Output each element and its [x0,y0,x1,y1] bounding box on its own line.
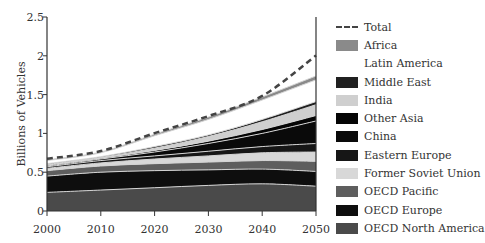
legend-label: China [364,130,397,143]
x-tick-label: 2000 [33,223,61,236]
color-swatch-icon [336,223,358,234]
legend-item-eastern-europe: Eastern Europe [336,146,477,164]
legend-label: OECD Europe [364,204,442,217]
color-swatch-icon [336,186,358,197]
y-tick-label: 1 [37,127,44,140]
color-swatch-icon [336,150,358,161]
legend-label: Africa [364,39,397,52]
legend-item-oecd-europe: OECD Europe [336,201,477,219]
color-swatch-icon [336,113,358,124]
y-axis-title: Billions of Vehicles [15,61,28,166]
color-swatch-icon [336,131,358,142]
y-tick-label: 2.5 [27,11,45,24]
legend-label: Eastern Europe [364,149,452,162]
y-ticks: 00.511.522.5 [27,11,48,218]
y-tick-label: 1.5 [27,89,45,102]
x-ticks: 200020102020203020402050 [33,211,330,236]
x-tick-label: 2040 [248,223,276,236]
legend-label: Total [364,21,392,34]
dashed-line-swatch-icon [336,26,358,28]
y-tick-label: 0.5 [27,166,45,179]
color-swatch-icon [336,168,358,179]
legend-item-india: India [336,91,477,109]
color-swatch-icon [336,77,358,88]
x-tick-label: 2010 [87,223,115,236]
legend-label: Latin America [364,57,443,70]
x-tick-label: 2050 [302,223,330,236]
legend-item-latin-america: Latin America [336,55,477,73]
y-tick-label: 2 [37,50,44,63]
x-tick-label: 2020 [141,223,169,236]
legend-item-other-asia: Other Asia [336,109,477,127]
color-swatch-icon [336,205,358,216]
y-tick-label: 0 [37,205,44,218]
legend-item-china: China [336,128,477,146]
legend-item-total: Total [336,18,477,36]
legend-label: Middle East [364,76,431,89]
legend-label: OECD Pacific [364,185,438,198]
legend-item-africa: Africa [336,36,477,54]
legend: TotalAfricaLatin AmericaMiddle EastIndia… [336,18,477,238]
legend-label: OECD North America [364,222,485,235]
legend-item-middle-east: Middle East [336,73,477,91]
legend-item-oecd-pacific: OECD Pacific [336,183,477,201]
legend-item-former-soviet-union: Former Soviet Union [336,164,477,182]
legend-item-oecd-north-america: OECD North America [336,219,477,237]
color-swatch-icon [336,58,358,69]
legend-label: Former Soviet Union [364,167,481,180]
color-swatch-icon [336,95,358,106]
x-tick-label: 2030 [194,223,222,236]
legend-label: Other Asia [364,112,423,125]
legend-label: India [364,94,393,107]
color-swatch-icon [336,40,358,51]
